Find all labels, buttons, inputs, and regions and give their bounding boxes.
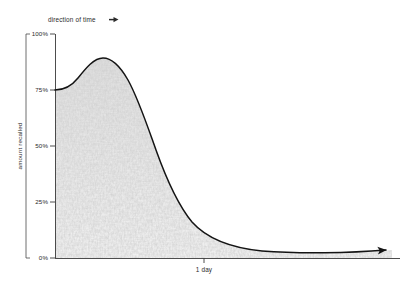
y-axis-title-bracket	[26, 34, 30, 258]
y-tick-label-50: 50%	[35, 142, 48, 149]
amount-recalled-axis	[50, 34, 55, 258]
y-tick-label-75: 75%	[35, 86, 48, 93]
y-tick-label-100: 100%	[32, 30, 49, 37]
right-arrow-icon	[109, 17, 119, 22]
x-tick-label-1-day: 1 day	[196, 266, 213, 274]
time-axis	[55, 258, 400, 263]
forgetting-curve-chart: 100% 75% 50% 25% 0% amount recalled 1 da…	[0, 0, 420, 283]
y-axis-title: amount recalled	[16, 122, 23, 169]
y-tick-label-25: 25%	[35, 198, 48, 205]
y-tick-label-0: 0%	[39, 254, 49, 261]
chart-title: direction of time	[48, 16, 96, 23]
area-fill	[50, 50, 400, 262]
chart-canvas: 100% 75% 50% 25% 0% amount recalled 1 da…	[0, 0, 420, 283]
